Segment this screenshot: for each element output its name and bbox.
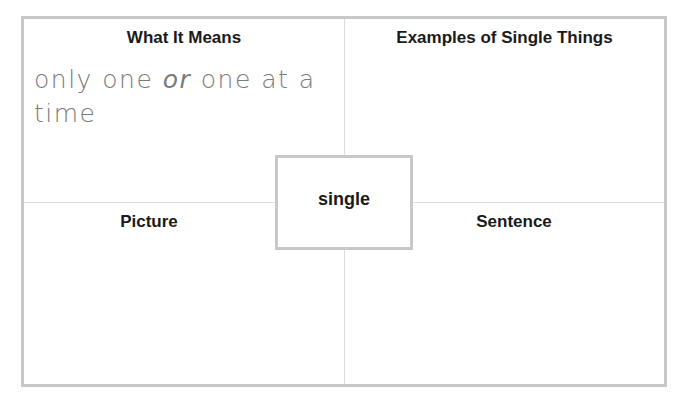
definition-part-2: or xyxy=(163,65,192,94)
center-word: single xyxy=(318,189,370,210)
definition-part-1: only one xyxy=(34,65,163,94)
definition-text[interactable]: only one or one at a time xyxy=(34,63,334,131)
heading-examples: Examples of Single Things xyxy=(345,28,664,48)
heading-sentence: Sentence xyxy=(414,212,614,232)
heading-picture: Picture xyxy=(24,212,274,232)
center-word-box: single xyxy=(275,155,413,250)
heading-what-it-means: What It Means xyxy=(24,28,344,48)
